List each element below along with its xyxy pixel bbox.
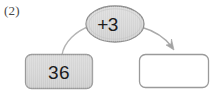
- output-box-shape: [140, 55, 209, 88]
- function-machine-figure: (2) +3 36: [0, 0, 215, 95]
- input-box-label: 36: [25, 63, 93, 82]
- operator-label: +3: [0, 15, 215, 34]
